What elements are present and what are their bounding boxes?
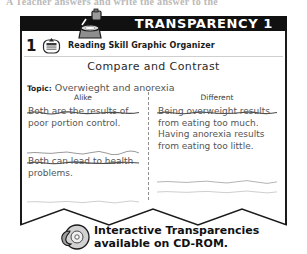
reading-skill-badge-icon [42, 37, 61, 55]
worksheet-title: Compare and Contrast [20, 60, 287, 73]
topic-value[interactable]: Overwieght and anorexia [55, 82, 175, 93]
transparency-title: TRANSPARENCY 1 [135, 16, 273, 31]
header-divider [24, 56, 283, 57]
topic-row: Topic:Overwieght and anorexia [27, 77, 277, 90]
transparency-titlebar: TRANSPARENCY 1 [20, 16, 287, 31]
worksheet-header-row: 1 Reading Skill Graphic Organizer [20, 36, 287, 58]
different-entry-1[interactable]: Being overweight results from eating too… [158, 106, 280, 152]
alike-entry-1[interactable]: Both are the results of poor portion con… [28, 106, 140, 129]
squiggle-rule [157, 180, 277, 185]
cropped-top-text: A Teacher answers and write the answer t… [6, 0, 301, 8]
column-divider [148, 92, 149, 200]
topic-label: Topic: [27, 84, 52, 93]
squiggle-rule [27, 141, 139, 146]
alike-entry-2[interactable]: Both can lead to health problems. [28, 156, 140, 179]
overhead-projector-icon [72, 8, 108, 41]
transparency-number: 1 [26, 37, 36, 55]
cd-rom-note-line1: Interactive Transparencies [94, 224, 294, 237]
squiggle-rule [157, 170, 277, 175]
reading-skill-label: Reading Skill Graphic Organizer [68, 41, 215, 50]
squiggle-rule [27, 190, 139, 195]
cd-rom-note: Interactive Transparencies available on … [94, 224, 294, 250]
cd-rom-disc-icon [58, 222, 92, 252]
cd-rom-note-line2: available on CD-ROM. [94, 237, 294, 250]
